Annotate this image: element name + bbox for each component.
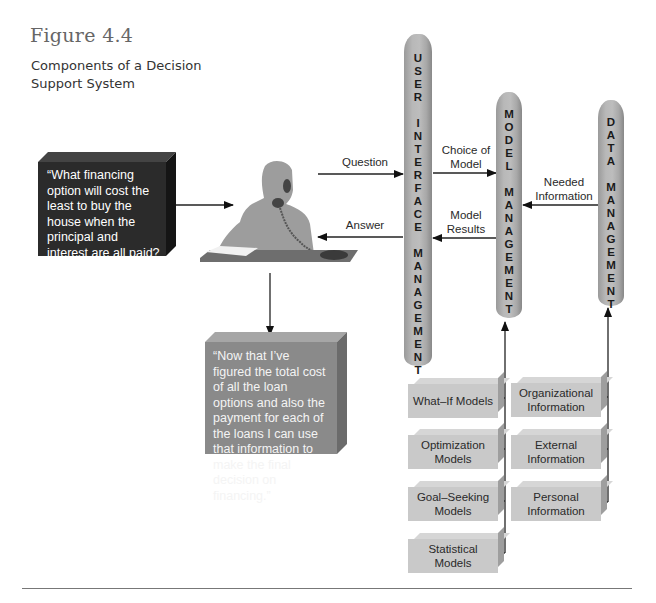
pillar-letter: S	[414, 65, 422, 78]
pillar-letter: R	[414, 91, 422, 104]
box-side-face	[498, 527, 504, 567]
pillar-letter: E	[414, 338, 422, 351]
bottom-divider	[22, 588, 632, 589]
pillar-letter: M	[606, 181, 616, 194]
pillar-letter: O	[505, 121, 514, 134]
box-label: OptimizationModels	[408, 435, 498, 469]
pillar-letter: M	[413, 325, 423, 338]
bubble-top-face	[38, 152, 176, 162]
external-information-box: ExternalInformation	[511, 429, 607, 469]
user-interface-management-pillar: USERINTERFACEMANAGEMENT	[404, 34, 432, 366]
pillar-letter: A	[607, 194, 615, 207]
box-label: Goal–SeekingModels	[408, 487, 498, 521]
box-label: PersonalInformation	[511, 487, 601, 521]
label-line: Model	[436, 157, 496, 171]
box-line: Models	[417, 504, 489, 518]
pillar-letter: E	[414, 221, 422, 234]
pillar-letter: G	[414, 299, 423, 312]
pillar-letter: A	[414, 286, 422, 299]
box-line: Information	[527, 452, 585, 466]
pillar-label: DATAMANAGEMENT	[606, 116, 616, 311]
pillar-letter: N	[414, 273, 422, 286]
answer-label: Answer	[330, 218, 400, 232]
pillar-letter: G	[607, 233, 616, 246]
pillar-letter: D	[607, 116, 615, 129]
pillar-letter: T	[607, 142, 614, 155]
box-side-face	[498, 372, 504, 412]
box-line: Personal	[527, 490, 585, 504]
pillar-letter: A	[607, 155, 615, 168]
box-side-face	[498, 475, 504, 515]
box-line: Information	[527, 504, 585, 518]
pillar-letter: N	[607, 207, 615, 220]
pillar-letter: E	[505, 277, 513, 290]
pillar-letter: C	[414, 208, 422, 221]
box-label: ExternalInformation	[511, 435, 601, 469]
pillar-letter: M	[413, 247, 423, 260]
label-line: Results	[436, 222, 496, 236]
question-label: Question	[330, 155, 400, 169]
person-on-phone-at-desk-icon	[200, 158, 360, 268]
personal-information-box: PersonalInformation	[511, 481, 607, 521]
pillar-letter: M	[504, 264, 514, 277]
pillar-letter: E	[607, 246, 615, 259]
box-line: Statistical	[428, 542, 477, 556]
pillar-letter: R	[414, 169, 422, 182]
pillar-letter: A	[414, 260, 422, 273]
pillar-letter: T	[414, 143, 421, 156]
pillar-letter: U	[414, 52, 422, 65]
pillar-letter: N	[414, 351, 422, 364]
pillar-letter: L	[505, 160, 512, 173]
pillar-label: USERINTERFACEMANAGEMENT	[413, 52, 423, 377]
pillar-letter: N	[414, 130, 422, 143]
label-line: Choice of	[436, 143, 496, 157]
pillar-letter: T	[505, 303, 512, 316]
box-line: What–If Models	[413, 394, 493, 408]
model-management-pillar: MODELMANAGEMENT	[496, 92, 522, 318]
optimization-models-box: OptimizationModels	[408, 429, 504, 469]
pillar-letter: A	[505, 199, 513, 212]
choice-of-model-label: Choice of Model	[436, 143, 496, 171]
pillar-letter: T	[414, 364, 421, 377]
box-line: Models	[428, 556, 477, 570]
pillar-letter: A	[414, 195, 422, 208]
bubble-side-face	[166, 152, 176, 256]
pillar-letter: M	[504, 186, 514, 199]
pillar-letter: A	[607, 129, 615, 142]
answer-text: “Now that I’ve figured the total cost of…	[205, 342, 337, 454]
needed-information-label: Needed Information	[526, 175, 602, 203]
answer-bubble: “Now that I’ve figured the total cost of…	[205, 332, 347, 454]
box-line: Goal–Seeking	[417, 490, 489, 504]
pillar-letter: N	[607, 285, 615, 298]
box-line: Models	[421, 452, 485, 466]
pillar-letter: A	[505, 225, 513, 238]
bubble-side-face	[337, 332, 347, 454]
pillar-letter: E	[414, 156, 422, 169]
statistical-models-box: StatisticalModels	[408, 533, 504, 573]
data-management-pillar: DATAMANAGEMENT	[598, 100, 624, 306]
box-line: Information	[519, 400, 593, 414]
goal-seeking-models-box: Goal–SeekingModels	[408, 481, 504, 521]
box-side-face	[498, 423, 504, 463]
pillar-letter: E	[414, 312, 422, 325]
what-if-models-box: What–If Models	[408, 378, 504, 418]
organizational-information-box: OrganizationalInformation	[511, 377, 607, 417]
pillar-letter: N	[505, 212, 513, 225]
box-label: OrganizationalInformation	[511, 383, 601, 417]
box-side-face	[601, 475, 607, 515]
pillar-letter: E	[505, 147, 513, 160]
label-line: Information	[526, 189, 602, 203]
pillar-letter: N	[505, 290, 513, 303]
question-bubble: “What financing option will cost the lea…	[38, 152, 176, 256]
pillar-letter: T	[607, 298, 614, 311]
box-line: Organizational	[519, 386, 593, 400]
pillar-letter: M	[606, 259, 616, 272]
pillar-letter: E	[607, 272, 615, 285]
label-line: Model	[436, 208, 496, 222]
pillar-letter: E	[414, 78, 422, 91]
box-label: What–If Models	[408, 384, 498, 418]
pillar-letter: E	[505, 251, 513, 264]
box-label: StatisticalModels	[408, 539, 498, 573]
bubble-top-face	[205, 332, 347, 342]
pillar-label: MODELMANAGEMENT	[504, 108, 514, 316]
